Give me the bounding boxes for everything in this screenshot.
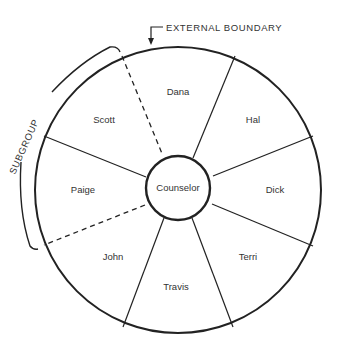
spoke-scott-dana-dashed <box>122 56 163 156</box>
spoke-hal-dick <box>213 136 313 176</box>
member-label-john: John <box>103 251 124 262</box>
member-label-terri: Terri <box>239 251 257 262</box>
spoke-paige-scott <box>44 136 146 177</box>
spoke-travis-john <box>123 218 164 327</box>
subgroup-bracket-top <box>52 47 120 92</box>
subgroup-label: SUBGROUP <box>7 117 41 176</box>
member-label-hal: Hal <box>246 114 260 125</box>
counselor-label: Counselor <box>156 182 199 193</box>
member-label-scott: Scott <box>93 114 115 125</box>
spoke-dick-terri <box>212 204 313 246</box>
member-label-paige: Paige <box>71 184 95 195</box>
spoke-john-paige-dashed <box>44 205 145 245</box>
spoke-dana-hal <box>193 56 235 158</box>
member-label-dana: Dana <box>167 86 190 97</box>
member-label-dick: Dick <box>266 184 285 195</box>
arrowhead-icon <box>148 38 154 45</box>
group-circle-diagram: SUBGROUP EXTERNAL BOUNDARY Counselor Dan… <box>0 0 342 354</box>
external-boundary-label: EXTERNAL BOUNDARY <box>166 22 282 33</box>
member-label-travis: Travis <box>163 281 189 292</box>
spoke-terri-travis <box>192 218 233 327</box>
